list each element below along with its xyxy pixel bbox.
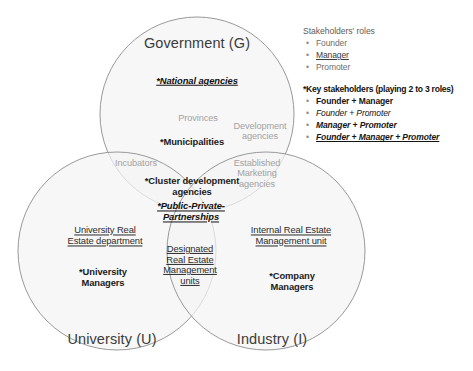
- key-stakeholder-item-label: Founder + Manager + Promoter: [316, 131, 439, 143]
- venn-entry-company-managers: *Company Managers: [269, 271, 315, 292]
- bullet-icon: •: [306, 131, 309, 143]
- venn-entry-public-private: *Public-Private- Partnerships: [157, 201, 225, 222]
- stakeholder-role-item-label: Founder: [316, 37, 347, 49]
- venn-entry-university-real-estate: University Real Estate department: [68, 225, 143, 246]
- key-stakeholders-heading: *Key stakeholders (playing 2 to 3 roles): [303, 84, 471, 94]
- bullet-icon: •: [306, 37, 309, 49]
- stakeholder-roles-list: •Founder•Manager•Promoter: [303, 37, 471, 73]
- stakeholder-roles-heading: Stakeholders' roles: [303, 26, 471, 36]
- bullet-icon: •: [306, 49, 309, 61]
- legend-panel: Stakeholders' roles •Founder•Manager•Pro…: [303, 26, 471, 143]
- key-stakeholder-item-label: Founder + Promoter: [316, 107, 391, 119]
- circle-title-government: Government (G): [144, 35, 250, 51]
- stakeholder-role-item-label: Promoter: [316, 61, 350, 73]
- venn-entry-internal-real-estate: Internal Real Estate Management unit: [251, 225, 331, 246]
- key-stakeholders-list: •Founder + Manager•Founder + Promoter•Ma…: [303, 95, 471, 143]
- venn-entry-national-agencies: *National agencies: [156, 76, 238, 87]
- key-stakeholder-item-label: Manager + Promoter: [316, 119, 397, 131]
- venn-entry-municipalities: *Municipalities: [160, 137, 224, 148]
- stakeholder-role-item-0: •Founder: [303, 37, 471, 49]
- bullet-icon: •: [306, 119, 309, 131]
- stakeholder-role-item-label: Manager: [316, 49, 349, 61]
- venn-entry-incubators: Incubators: [115, 158, 157, 168]
- key-stakeholder-item-label: Founder + Manager: [316, 95, 393, 107]
- legend-spacer: [303, 73, 471, 84]
- key-stakeholder-item-0: •Founder + Manager: [303, 95, 471, 107]
- key-stakeholder-item-3: •Founder + Manager + Promoter: [303, 131, 471, 143]
- venn-entry-provinces: Provinces: [178, 113, 217, 123]
- venn-entry-development-agencies: Development agencies: [233, 121, 286, 142]
- key-stakeholder-item-1: •Founder + Promoter: [303, 107, 471, 119]
- stakeholder-role-item-2: •Promoter: [303, 61, 471, 73]
- circle-title-university: University (U): [67, 331, 156, 347]
- bullet-icon: •: [306, 107, 309, 119]
- key-stakeholder-item-2: •Manager + Promoter: [303, 119, 471, 131]
- venn-entry-designated-real-estate: Designated Real Estate Management units: [163, 244, 217, 286]
- venn-entry-cluster-development: *Cluster development agencies: [145, 176, 239, 197]
- stakeholder-role-item-1: •Manager: [303, 49, 471, 61]
- circle-title-industry: Industry (I): [237, 331, 308, 347]
- venn-entry-established-marketing: Established Marketing agencies: [234, 158, 280, 189]
- bullet-icon: •: [306, 61, 309, 73]
- venn-entry-university-managers: *University Managers: [79, 267, 127, 288]
- bullet-icon: •: [306, 95, 309, 107]
